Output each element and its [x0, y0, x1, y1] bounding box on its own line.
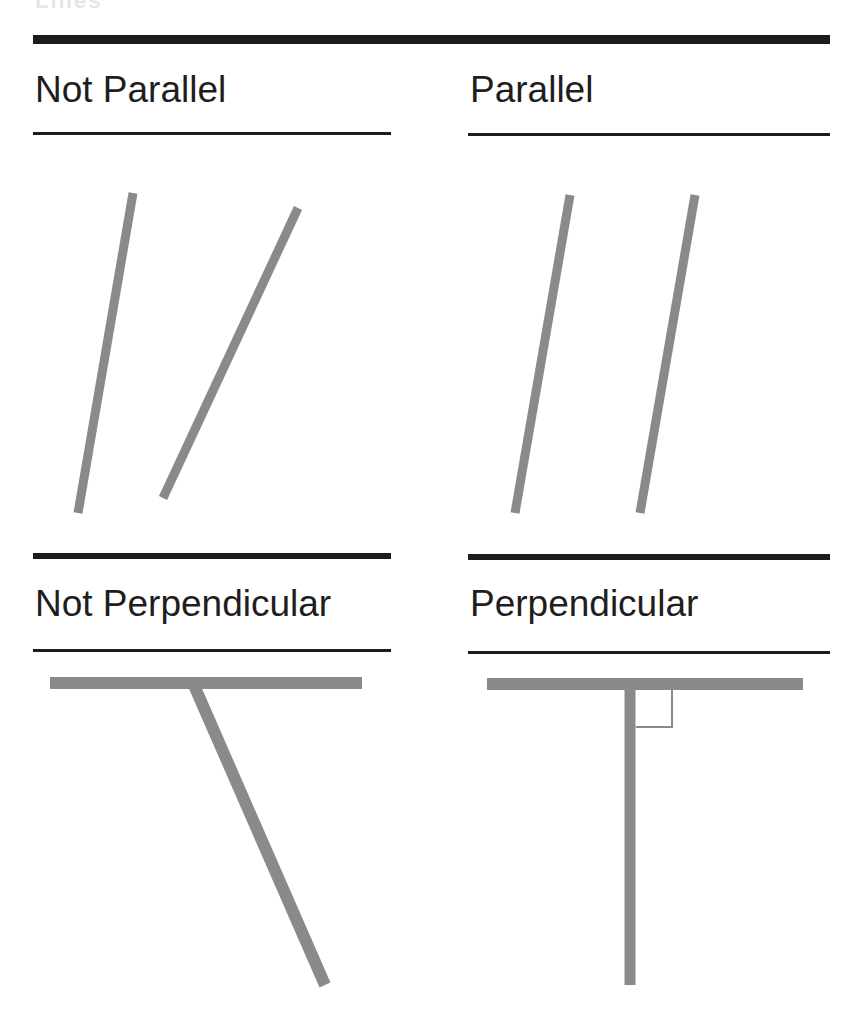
- not-perpendicular-slanted-line: [193, 683, 325, 985]
- parallel-line-b: [640, 195, 695, 513]
- right-angle-marker-icon: [636, 690, 672, 727]
- parallel-line-a: [515, 195, 570, 513]
- not-parallel-line-a: [78, 193, 133, 513]
- not-parallel-line-b: [163, 208, 298, 498]
- line-diagrams: [0, 0, 845, 1014]
